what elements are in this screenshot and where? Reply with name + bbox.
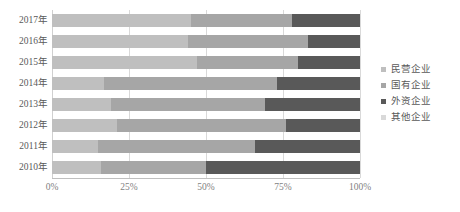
legend-item[interactable]: 外资企业 (381, 93, 457, 109)
chart-legend: 民营企业国有企业外资企业其他企业 (381, 61, 457, 125)
y-axis-label: 2017年 (2, 14, 48, 27)
bar-segment (52, 161, 101, 174)
legend-swatch-icon (381, 99, 386, 104)
x-axis-tick-label: 25% (120, 182, 137, 192)
bar-segment (101, 161, 206, 174)
bar-row (52, 14, 360, 27)
bar-segment (197, 56, 299, 69)
legend-item[interactable]: 国有企业 (381, 77, 457, 93)
x-axis-tick-label: 50% (197, 182, 214, 192)
plot-area (52, 10, 360, 178)
legend-swatch-icon (381, 115, 386, 120)
y-axis-label: 2010年 (2, 161, 48, 174)
y-axis-label: 2011年 (2, 140, 48, 153)
y-axis-label: 2014年 (2, 77, 48, 90)
legend-swatch-icon (381, 83, 386, 88)
bar-segment (98, 140, 255, 153)
bar-segment (277, 77, 360, 90)
legend-item[interactable]: 民营企业 (381, 61, 457, 77)
legend-item[interactable]: 其他企业 (381, 109, 457, 125)
bar-row (52, 161, 360, 174)
bar-row (52, 98, 360, 111)
bar-segment (292, 14, 360, 27)
bar-segment (52, 35, 188, 48)
bar-segment (52, 56, 197, 69)
bar-row (52, 119, 360, 132)
x-axis-tick-label: 75% (274, 182, 291, 192)
legend-swatch-icon (381, 67, 386, 72)
bar-segment (265, 98, 360, 111)
legend-item-label: 国有企业 (391, 77, 431, 93)
bar-segment (191, 14, 293, 27)
legend-item-label: 其他企业 (391, 109, 431, 125)
bar-segment (52, 77, 104, 90)
bar-row (52, 35, 360, 48)
gridline-100 (360, 10, 361, 178)
y-axis-label: 2013年 (2, 98, 48, 111)
bar-segment (286, 119, 360, 132)
bar-segment (111, 98, 265, 111)
bar-segment (308, 35, 360, 48)
bar-segment (52, 119, 117, 132)
legend-item-label: 民营企业 (391, 61, 431, 77)
y-axis-label: 2012年 (2, 119, 48, 132)
x-axis-tick-label: 100% (349, 182, 371, 192)
bar-segment (52, 14, 191, 27)
x-axis-tick-label: 0% (46, 182, 59, 192)
bar-segment (255, 140, 360, 153)
bar-row (52, 77, 360, 90)
bar-row (52, 56, 360, 69)
bar-row (52, 140, 360, 153)
y-axis-label: 2015年 (2, 56, 48, 69)
bar-segment (52, 140, 98, 153)
bar-segment (52, 98, 111, 111)
x-axis-line (52, 178, 360, 179)
bar-segment (298, 56, 360, 69)
bar-segment (206, 161, 360, 174)
stacked-bar-chart: 2017年2016年2015年2014年2013年2012年2011年2010年… (0, 0, 460, 212)
bar-segment (117, 119, 286, 132)
legend-item-label: 外资企业 (391, 93, 431, 109)
y-axis-label: 2016年 (2, 35, 48, 48)
bar-segment (188, 35, 308, 48)
y-axis-labels: 2017年2016年2015年2014年2013年2012年2011年2010年 (0, 10, 48, 178)
bar-segment (104, 77, 276, 90)
